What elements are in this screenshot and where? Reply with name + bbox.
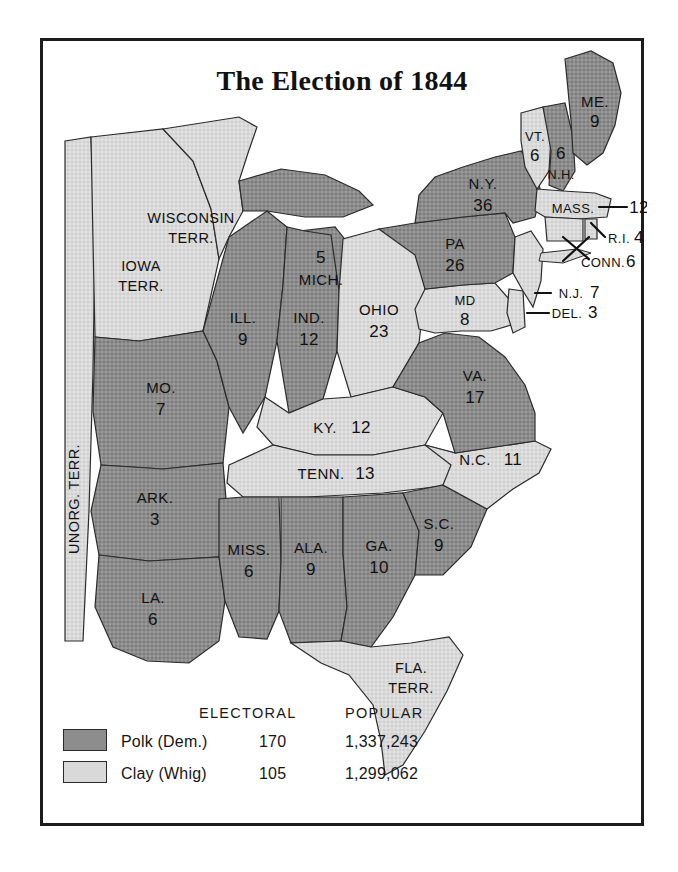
legend-swatch-polk [63,729,107,751]
label-nc-name: N.C. [459,451,491,468]
label-mass-name: MASS. [552,201,594,216]
state-unorg-terr[interactable] [65,137,95,641]
label-ark-name: ARK. [137,489,174,506]
label-md-votes: 8 [460,310,470,329]
label-iowa-terr-line1: IOWA [121,258,161,274]
state-mich-up[interactable] [239,169,373,217]
label-la-votes: 6 [148,610,158,629]
label-wisconsin-terr-line1: WISCONSIN [147,210,234,226]
label-mo-name: MO. [146,379,176,396]
legend-popular-polk: 1,337,243 [345,733,418,751]
label-ny-votes: 36 [473,196,493,215]
label-mass-votes: 12 [629,198,647,217]
label-vt-votes: 6 [530,146,540,165]
label-md-name: MD [454,293,475,308]
label-ala-name: ALA. [294,539,328,556]
label-sc-name: S.C. [424,515,455,532]
label-tenn-name: TENN. [298,465,345,482]
label-tenn-votes: 13 [355,464,375,483]
label-pa-votes: 26 [445,256,465,275]
label-fla-terr-line1: FLA. [395,660,427,676]
legend-swatch-clay [63,761,107,783]
state-ky[interactable] [257,387,443,455]
label-me-name: ME. [581,93,609,110]
label-del-votes: 3 [588,303,598,322]
label-mich-votes: 5 [316,248,326,267]
label-unorg-terr: UNORG. TERR. [66,444,82,554]
state-la[interactable] [95,555,225,663]
label-wisconsin-terr-line2: TERR. [168,230,214,246]
label-sc-votes: 9 [434,536,444,555]
label-mich-name: MICH. [299,271,344,288]
legend-candidate-clay: Clay (Whig) [121,765,207,783]
label-pa-name: PA [445,235,465,252]
label-miss-name: MISS. [228,541,271,558]
state-del[interactable] [507,289,525,333]
label-va-name: VA. [463,367,487,384]
legend-header-popular: POPULAR [345,705,423,721]
label-mo-votes: 7 [156,400,166,419]
label-me-votes: 9 [590,112,600,131]
label-ill-name: ILL. [230,309,257,326]
label-ill-votes: 9 [238,330,248,349]
label-ky-votes: 12 [351,418,371,437]
label-ky-name: KY. [313,419,336,436]
map-legend: ELECTORAL POPULAR Polk (Dem.) 170 1,337,… [63,701,533,806]
legend-electoral-polk: 170 [259,733,286,751]
map-frame: The Election of 1844 [40,38,644,826]
label-va-votes: 17 [465,388,485,407]
label-ri-votes: 4 [634,228,644,247]
label-ny-name: N.Y. [469,175,498,192]
legend-header-electoral: ELECTORAL [199,705,297,721]
label-ohio-name: OHIO [359,301,399,318]
label-nc-votes: 11 [504,450,522,469]
label-ark-votes: 3 [150,510,160,529]
label-ala-votes: 9 [306,560,316,579]
label-nh-votes: 6 [556,144,566,163]
label-ga-votes: 10 [369,558,389,577]
label-nj-name: N.J. [559,286,584,301]
label-conn-name: CONN. [581,255,625,270]
label-miss-votes: 6 [244,562,254,581]
label-ohio-votes: 23 [369,322,389,341]
label-nh-name: N.H. [547,167,575,182]
legend-electoral-clay: 105 [259,765,286,783]
label-nj-votes: 7 [590,283,600,302]
label-ind-name: IND. [293,309,325,326]
label-vt-name: VT. [525,129,545,144]
legend-popular-clay: 1,299,062 [345,765,418,783]
label-iowa-terr-line2: TERR. [118,278,164,294]
label-fla-terr-line2: TERR. [388,680,434,696]
label-la-name: LA. [141,589,165,606]
label-ind-votes: 12 [299,330,319,349]
label-conn-votes: 6 [626,252,636,271]
label-ga-name: GA. [365,537,392,554]
legend-candidate-polk: Polk (Dem.) [121,733,208,751]
label-ri-name: R.I. [608,231,630,246]
label-del-name: DEL. [552,306,583,321]
